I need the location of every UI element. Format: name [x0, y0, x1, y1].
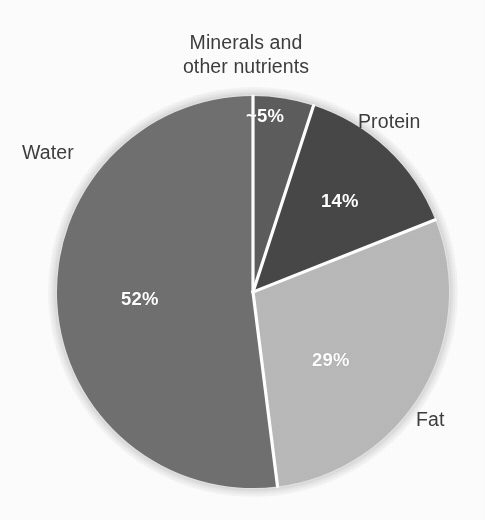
pie-value-minerals: ~5% [246, 105, 284, 127]
pie-label-fat: Fat [416, 408, 444, 432]
pie-chart-figure: Minerals and other nutrients Water Prote… [0, 0, 485, 520]
pie-value-water: 52% [121, 288, 159, 310]
pie-value-protein: 14% [321, 190, 359, 212]
pie-value-fat: 29% [312, 349, 350, 371]
pie-slice-water[interactable] [57, 96, 278, 488]
pie-label-minerals: Minerals and other nutrients [153, 31, 339, 79]
pie-label-protein: Protein [358, 110, 421, 134]
pie-label-water: Water [22, 141, 74, 165]
pie-label-minerals-line2: other nutrients [183, 55, 309, 77]
pie-label-minerals-line1: Minerals and [190, 31, 303, 53]
